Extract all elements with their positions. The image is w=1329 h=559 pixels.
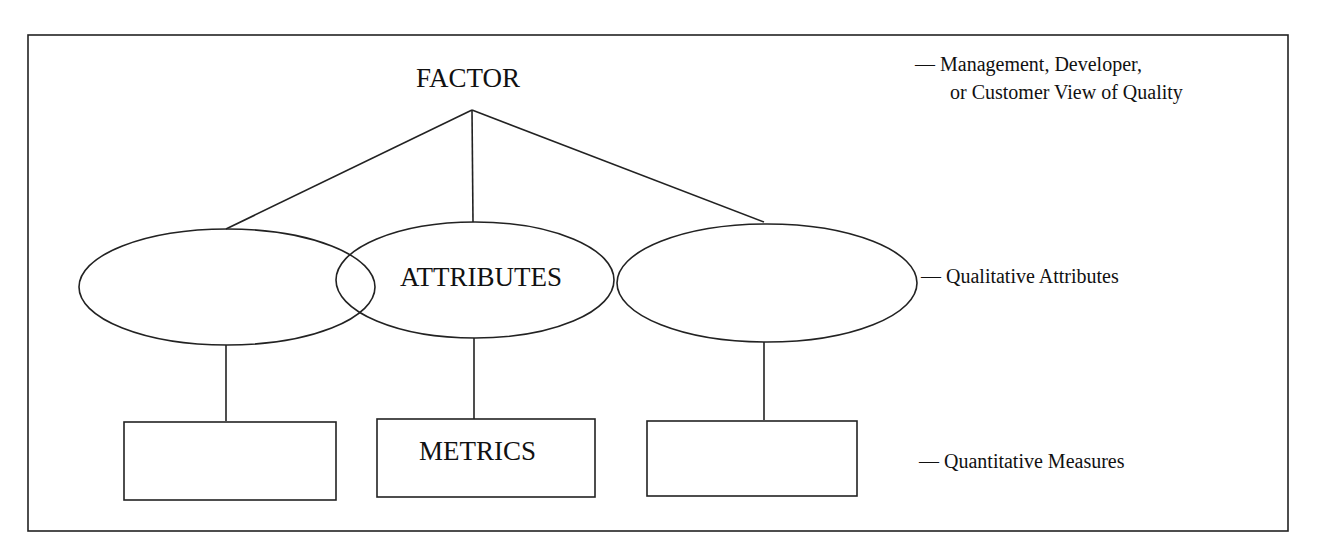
connector-factor-middle [472, 110, 473, 222]
attributes-annotation: — Qualitative Attributes [921, 263, 1119, 289]
metric-box-right [647, 421, 857, 496]
factor-annotation-line1: — Management, Developer, [915, 51, 1142, 77]
attribute-ellipse-right [617, 224, 917, 342]
metric-box-left [124, 422, 336, 500]
metrics-label: METRICS [419, 436, 536, 467]
factor-label: FACTOR [416, 63, 520, 94]
connector-factor-right [472, 110, 764, 222]
attributes-label: ATTRIBUTES [400, 262, 562, 293]
factor-annotation-line2: or Customer View of Quality [950, 79, 1183, 105]
connector-factor-left [226, 110, 472, 229]
attribute-ellipse-left [79, 229, 375, 345]
metrics-annotation: — Quantitative Measures [919, 448, 1125, 474]
